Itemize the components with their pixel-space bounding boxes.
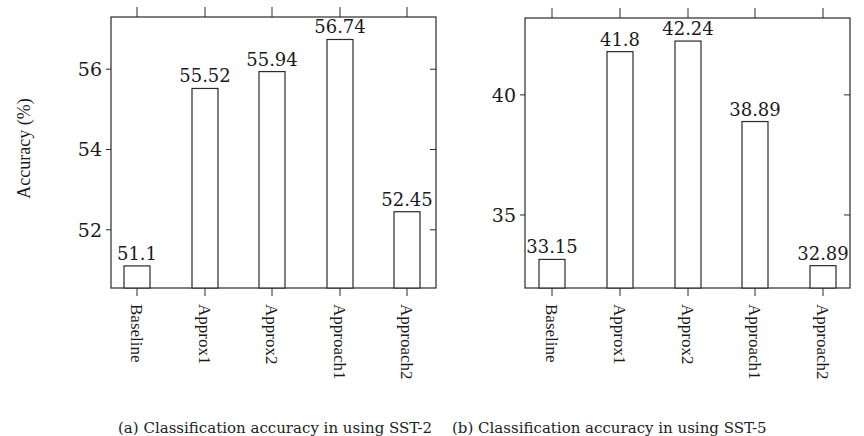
bar (259, 72, 285, 288)
y-tick-label: 56 (78, 58, 102, 80)
bar-value-label: 56.74 (314, 16, 366, 37)
x-category-label: Approx2 (262, 304, 281, 364)
bar-value-label: 52.45 (381, 189, 433, 210)
bar-value-label: 55.52 (179, 65, 231, 86)
chart-sst2: 52545651.1Baseline55.52Approx155.94Appro… (14, 7, 436, 380)
x-category-label: Approach1 (745, 304, 764, 380)
bar-value-label: 32.89 (797, 243, 849, 264)
x-category-label: Approx1 (610, 304, 629, 364)
x-category-label: Approx2 (678, 304, 697, 364)
bar-value-label: 38.89 (729, 99, 781, 120)
bar-charts: 52545651.1Baseline55.52Approx155.94Appro… (0, 0, 864, 436)
bar-value-label: 41.8 (600, 29, 640, 50)
bar (742, 122, 768, 288)
bar (394, 212, 420, 288)
chart-sst5: 354033.15Baseline41.8Approx142.24Approx2… (492, 8, 850, 380)
bar (192, 88, 218, 288)
y-tick-label: 54 (78, 138, 102, 160)
y-tick-label: 35 (492, 204, 516, 226)
caption-b: (b) Classification accuracy in using SST… (452, 419, 767, 436)
bar-value-label: 55.94 (246, 49, 298, 70)
x-category-label: Approach2 (397, 304, 416, 380)
x-category-label: Approach2 (813, 304, 832, 380)
bar (124, 266, 150, 288)
caption-a: (a) Classification accuracy in using SST… (118, 419, 432, 436)
y-tick-label: 52 (78, 219, 102, 241)
bar (675, 41, 701, 288)
x-category-label: Approach1 (330, 304, 349, 380)
bar (607, 52, 633, 288)
x-category-label: Approx1 (195, 304, 214, 364)
bar-value-label: 33.15 (526, 236, 578, 257)
x-category-label: Baseline (127, 304, 146, 363)
x-category-label: Baseline (542, 304, 561, 363)
bar (810, 266, 836, 288)
y-tick-label: 40 (492, 84, 516, 106)
bar-value-label: 42.24 (662, 18, 714, 39)
y-axis-label: Accuracy (%) (14, 98, 35, 198)
bar (327, 39, 353, 288)
bar-value-label: 51.1 (117, 243, 157, 264)
bar (539, 259, 565, 288)
